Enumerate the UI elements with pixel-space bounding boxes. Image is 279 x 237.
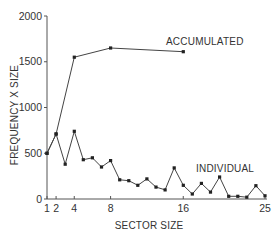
data-point-marker <box>145 177 148 180</box>
y-tick-label: 2000 <box>19 10 43 22</box>
data-point-marker <box>136 184 139 187</box>
x-tick-label: 16 <box>177 202 189 214</box>
series-line <box>47 48 183 153</box>
data-point-marker <box>73 56 76 59</box>
y-tick-label: 500 <box>24 147 42 159</box>
y-tick-label: 1500 <box>19 55 43 67</box>
data-point-marker <box>254 184 257 187</box>
x-tick-label: 4 <box>71 202 77 214</box>
x-tick-label: 2 <box>53 202 59 214</box>
data-point-marker <box>200 182 203 185</box>
x-tick-label: 8 <box>108 202 114 214</box>
x-tick-label: 1 <box>44 202 50 214</box>
y-tick-label: 1000 <box>19 101 43 113</box>
data-point-marker <box>182 184 185 187</box>
y-axis-title: FREQUENCY X SIZE <box>9 65 20 165</box>
data-point-marker <box>45 152 48 155</box>
series-label: ACCUMULATED <box>166 36 244 47</box>
data-point-marker <box>245 196 248 199</box>
data-point-marker <box>263 194 266 197</box>
data-point-marker <box>209 191 212 194</box>
data-point-marker <box>154 186 157 189</box>
data-point-marker <box>118 178 121 181</box>
data-point-marker <box>182 50 185 53</box>
x-axis-title: SECTOR SIZE <box>115 220 184 231</box>
data-point-marker <box>82 158 85 161</box>
data-point-marker <box>73 130 76 133</box>
data-point-marker <box>218 175 221 178</box>
data-point-marker <box>164 188 167 191</box>
series-label: INDIVIDUAL <box>196 163 254 174</box>
chart: 050010001500200012481625 ACCUMULATEDINDI… <box>0 0 279 237</box>
data-point-marker <box>64 163 67 166</box>
data-point-marker <box>227 195 230 198</box>
data-point-marker <box>127 179 130 182</box>
data-point-marker <box>236 195 239 198</box>
data-point-marker <box>191 192 194 195</box>
data-point-marker <box>91 156 94 159</box>
series-individual: INDIVIDUAL <box>45 130 266 199</box>
data-point-marker <box>55 132 58 135</box>
data-point-marker <box>173 166 176 169</box>
x-tick-label: 25 <box>259 202 271 214</box>
data-point-marker <box>100 165 103 168</box>
y-tick-label: 0 <box>36 193 42 205</box>
series-group: ACCUMULATEDINDIVIDUAL <box>45 36 266 199</box>
data-point-marker <box>109 159 112 162</box>
data-point-marker <box>109 46 112 49</box>
series-accumulated: ACCUMULATED <box>45 36 243 155</box>
